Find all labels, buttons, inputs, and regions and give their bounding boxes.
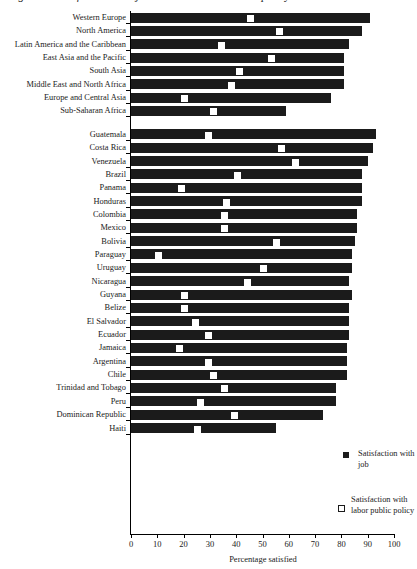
job-bar (131, 106, 286, 116)
row-label: Haiti (0, 422, 126, 435)
policy-marker (210, 372, 217, 379)
legend-policy-swatch-icon (338, 505, 345, 512)
row-label: Latin America and the Caribbean (0, 38, 126, 51)
chart-row: Jamaica (0, 341, 417, 354)
policy-marker (197, 399, 204, 406)
job-bar (131, 26, 362, 36)
chart-row: Argentina (0, 355, 417, 368)
job-bar (131, 53, 344, 63)
policy-marker (181, 305, 188, 312)
chart-row: Uruguay (0, 261, 417, 274)
x-tick (157, 534, 158, 538)
policy-marker (247, 15, 254, 22)
row-label: Bolivia (0, 235, 126, 248)
row-label: Honduras (0, 195, 126, 208)
policy-marker (223, 199, 230, 206)
chart-row: Paraguay (0, 248, 417, 261)
job-bar (131, 330, 349, 340)
chart-row: Middle East and North Africa (0, 78, 417, 91)
x-tick (341, 534, 342, 538)
chart-row: Latin America and the Caribbean (0, 38, 417, 51)
x-tick-label: 50 (251, 539, 275, 549)
policy-marker (278, 145, 285, 152)
chart-row: Trinidad and Tobago (0, 381, 417, 394)
x-tick (394, 534, 395, 538)
job-bar (131, 196, 362, 206)
row-label: Nicaragua (0, 275, 126, 288)
job-bar (131, 396, 336, 406)
row-label: Chile (0, 368, 126, 381)
chart-row: Guatemala (0, 128, 417, 141)
x-tick (236, 534, 237, 538)
row-label: Venezuela (0, 155, 126, 168)
policy-marker (181, 95, 188, 102)
row-label: Guatemala (0, 128, 126, 141)
y-tick (126, 434, 130, 435)
job-bar (131, 79, 344, 89)
row-label: Colombia (0, 208, 126, 221)
row-label: Western Europe (0, 11, 126, 24)
chart-row: Sub-Saharan Africa (0, 104, 417, 117)
chart-row: Belize (0, 301, 417, 314)
chart-row: Western Europe (0, 11, 417, 24)
chart-row: Brazil (0, 168, 417, 181)
chart-row: Peru (0, 395, 417, 408)
job-bar (131, 276, 349, 286)
job-bar (131, 343, 347, 353)
x-axis-title: Percentage satisfied (131, 554, 395, 564)
policy-marker (181, 292, 188, 299)
x-tick (184, 534, 185, 538)
job-bar (131, 290, 352, 300)
job-bar (131, 263, 352, 273)
row-label: East Asia and the Pacific (0, 51, 126, 64)
job-bar (131, 303, 349, 313)
policy-marker (205, 132, 212, 139)
policy-marker (221, 225, 228, 232)
policy-marker (221, 212, 228, 219)
x-tick (315, 534, 316, 538)
chart-row: Bolivia (0, 235, 417, 248)
policy-marker (205, 359, 212, 366)
row-label: Jamaica (0, 341, 126, 354)
x-tick-label: 0 (119, 539, 143, 549)
chart-row: Colombia (0, 208, 417, 221)
policy-marker (205, 332, 212, 339)
job-bar (131, 223, 357, 233)
job-bar (131, 143, 373, 153)
policy-marker (292, 159, 299, 166)
policy-marker (244, 279, 251, 286)
x-tick-label: 100 (382, 539, 406, 549)
chart-row: Europe and Central Asia (0, 91, 417, 104)
chart-row: Chile (0, 368, 417, 381)
job-bar (131, 156, 368, 166)
policy-marker (228, 82, 235, 89)
policy-marker (276, 28, 283, 35)
x-tick (289, 534, 290, 538)
row-label: Panama (0, 181, 126, 194)
plot-area: 0102030405060708090100 Western EuropeNor… (0, 0, 417, 569)
chart-row: North America (0, 24, 417, 37)
row-label: Argentina (0, 355, 126, 368)
x-tick (263, 534, 264, 538)
job-bar (131, 39, 349, 49)
row-label: Trinidad and Tobago (0, 381, 126, 394)
row-label: Paraguay (0, 248, 126, 261)
policy-marker (231, 412, 238, 419)
policy-marker (236, 68, 243, 75)
job-bar (131, 356, 347, 366)
figure-container: Figure 1. Satisfaction with job and with… (0, 0, 417, 569)
chart-row: Dominican Republic (0, 408, 417, 421)
chart-row: East Asia and the Pacific (0, 51, 417, 64)
policy-marker (194, 426, 201, 433)
legend-job-swatch-icon (343, 452, 349, 458)
row-label: South Asia (0, 64, 126, 77)
job-bar (131, 236, 355, 246)
chart-row: El Salvador (0, 315, 417, 328)
job-bar (131, 383, 336, 393)
chart-row: Nicaragua (0, 275, 417, 288)
legend-job-label: Satisfaction with job (358, 449, 416, 470)
chart-row: Mexico (0, 221, 417, 234)
policy-marker (210, 108, 217, 115)
row-label: Dominican Republic (0, 408, 126, 421)
chart-row: Honduras (0, 195, 417, 208)
